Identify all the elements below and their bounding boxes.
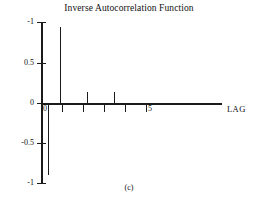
lag-axis-label: LAG xyxy=(227,104,246,114)
spike-lag-1 xyxy=(60,27,61,103)
spike-lag-4 xyxy=(114,92,115,103)
y-tick-neg0p5 xyxy=(37,143,46,144)
y-tick-label-0p5: 0.5 xyxy=(12,58,34,67)
y-tick-label-neg0p5: -0.5 xyxy=(12,138,34,147)
spike-lag-0 xyxy=(48,103,49,175)
x-tick-2 xyxy=(83,104,84,112)
y-tick-0p5 xyxy=(37,63,46,64)
x-tick-label-0: 0 xyxy=(43,104,47,113)
figure-caption: (c) xyxy=(0,183,258,192)
figure-panel: Inverse Autocorrelation Function -1 0.5 … xyxy=(0,0,258,211)
x-tick-3 xyxy=(104,104,105,112)
x-tick-4 xyxy=(125,104,126,112)
x-tick-5 xyxy=(146,104,147,112)
plot-area: -1 0.5 0 -0.5 -1 0 5 LAG xyxy=(0,0,258,211)
x-tick-label-5: 5 xyxy=(148,104,152,113)
x-axis-line xyxy=(41,103,222,105)
y-tick-label-top: -1 xyxy=(12,17,34,26)
spike-lag-3 xyxy=(87,92,88,103)
x-tick-0 xyxy=(41,104,42,112)
y-tick-label-0: 0 xyxy=(12,98,34,107)
y-tick-top xyxy=(37,22,46,23)
x-tick-1 xyxy=(62,104,63,112)
